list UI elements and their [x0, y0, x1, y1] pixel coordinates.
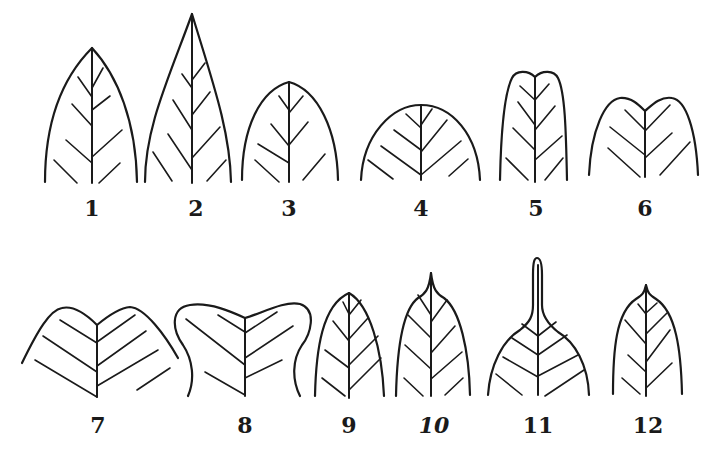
- leaf-label-5: 5: [528, 197, 543, 219]
- leaf-4-rounded-icon: [361, 105, 480, 180]
- leaf-3-obtuse-icon: [242, 82, 338, 182]
- leaf-label-3: 3: [281, 197, 296, 219]
- leaf-10-mucronate-icon: [396, 273, 470, 396]
- leaf-9-acute-short-icon: [315, 293, 384, 398]
- leaf-label-7: 7: [90, 414, 105, 436]
- leaf-11-caudate-icon: [488, 258, 589, 396]
- leaf-drawings: [0, 0, 716, 467]
- leaf-label-10: 10: [419, 414, 450, 436]
- leaf-label-12: 12: [633, 414, 664, 436]
- leaf-1-acute-icon: [45, 48, 137, 183]
- leaf-label-4: 4: [413, 197, 428, 219]
- leaf-7-obcordate-icon: [22, 307, 178, 397]
- leaf-apex-figure: 1 2 3 4 5 6 7 8 9 10 11 12: [0, 0, 716, 467]
- leaf-8-truncate-icon: [175, 303, 311, 396]
- leaf-2-acuminate-icon: [145, 14, 231, 183]
- leaf-6-emarginate-icon: [589, 98, 698, 177]
- leaf-5-retuse-icon: [500, 72, 567, 182]
- leaf-12-cuspidate-icon: [613, 285, 682, 396]
- leaf-label-6: 6: [637, 197, 652, 219]
- leaf-label-9: 9: [341, 414, 356, 436]
- leaf-label-8: 8: [237, 414, 252, 436]
- leaf-label-1: 1: [84, 197, 99, 219]
- leaf-label-2: 2: [188, 197, 203, 219]
- leaf-label-11: 11: [523, 414, 554, 436]
